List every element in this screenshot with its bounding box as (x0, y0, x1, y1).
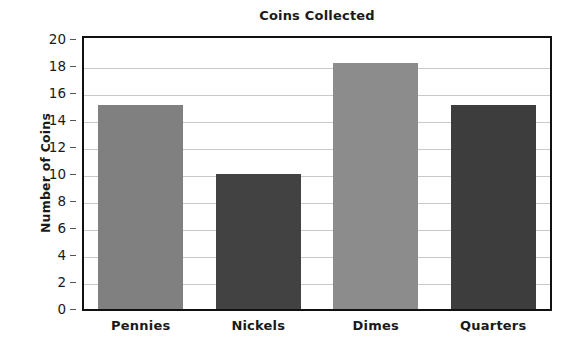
y-tick-label: 20 (49, 31, 66, 47)
y-tick-label: 4 (57, 247, 66, 263)
y-tick-label: 12 (49, 139, 66, 155)
gridline (84, 230, 550, 231)
gridline (84, 68, 550, 69)
y-tick-mark (70, 255, 76, 256)
y-tick-mark (70, 39, 76, 40)
x-axis-tick-labels: PenniesNickelsDimesQuarters (82, 318, 552, 344)
gridline (84, 284, 550, 285)
gridline (84, 203, 550, 204)
y-tick-label: 10 (49, 166, 66, 182)
y-tick-mark (70, 147, 76, 148)
y-axis-tick-labels: 02468101214161820 (0, 36, 76, 311)
y-tick-mark (70, 120, 76, 121)
y-tick-label: 8 (57, 193, 66, 209)
gridline (84, 149, 550, 150)
y-tick-mark (70, 201, 76, 202)
y-tick-label: 6 (57, 220, 66, 236)
x-tick-label: Pennies (82, 318, 200, 333)
x-tick-label: Nickels (200, 318, 318, 333)
y-tick-label: 14 (49, 112, 66, 128)
y-tick-label: 16 (49, 85, 66, 101)
x-tick-label: Dimes (317, 318, 435, 333)
y-tick-mark (70, 174, 76, 175)
gridline (84, 176, 550, 177)
plot-area (82, 36, 552, 311)
x-tick-label: Quarters (435, 318, 553, 333)
y-tick-mark (70, 228, 76, 229)
y-tick-mark (70, 93, 76, 94)
bar-chart-figure: Coins Collected Number of Coins 02468101… (0, 0, 582, 362)
y-tick-label: 2 (57, 274, 66, 290)
gridline (84, 95, 550, 96)
gridlines (84, 38, 550, 309)
gridline (84, 122, 550, 123)
y-tick-mark (70, 309, 76, 310)
y-tick-mark (70, 66, 76, 67)
y-tick-label: 0 (57, 301, 66, 317)
gridline (84, 257, 550, 258)
chart-title: Coins Collected (82, 8, 552, 23)
y-tick-mark (70, 282, 76, 283)
y-tick-label: 18 (49, 58, 66, 74)
